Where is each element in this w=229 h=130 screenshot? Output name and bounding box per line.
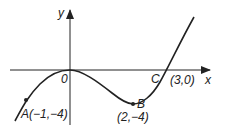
cubic-curve-line (15, 17, 194, 121)
point-c-coords-label: (3,0) (170, 73, 195, 87)
point-c-label: C (151, 72, 160, 86)
cubic-graph-diagram: y x 0 A(−1,−4) B (2,−4) C (3,0) (0, 0, 229, 130)
point-b-coords-label: (2,−4) (117, 110, 149, 124)
point-b-label: B (137, 97, 145, 111)
point-a-label: A(−1,−4) (20, 107, 68, 121)
y-axis-label: y (57, 6, 65, 20)
point-a-dot (24, 98, 28, 102)
origin-label: 0 (61, 72, 68, 86)
point-b-dot (131, 102, 135, 106)
x-axis-label: x (204, 73, 212, 87)
